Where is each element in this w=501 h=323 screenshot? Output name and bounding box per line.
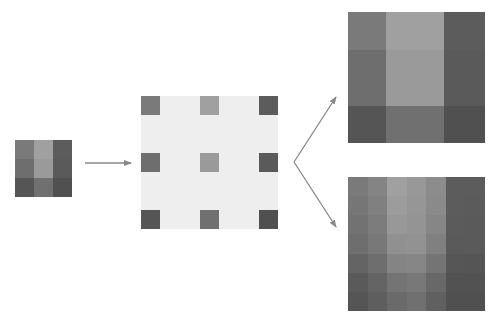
arrow [294, 162, 336, 227]
arrow [294, 97, 336, 162]
arrows [0, 0, 501, 323]
